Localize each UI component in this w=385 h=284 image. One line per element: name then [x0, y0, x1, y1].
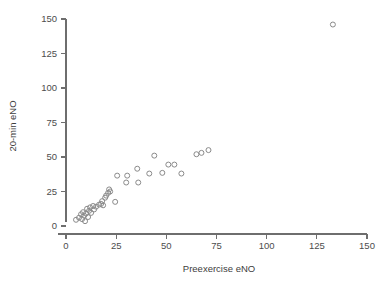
data-point — [152, 153, 157, 158]
plot-canvas: 0255075100125150 0255075100125150 Preexe… — [0, 0, 385, 284]
data-point — [136, 180, 141, 185]
x-tick-label: 0 — [63, 240, 68, 251]
x-axis-ticks: 0255075100125150 — [63, 234, 375, 251]
data-point — [166, 162, 171, 167]
data-point — [147, 171, 152, 176]
data-point — [135, 166, 140, 171]
data-point — [172, 162, 177, 167]
data-point — [115, 173, 120, 178]
data-point — [125, 173, 130, 178]
data-point — [206, 148, 211, 153]
y-axis: 0255075100125150 — [41, 13, 66, 231]
x-tick-label: 100 — [259, 240, 275, 251]
x-tick-label: 150 — [359, 240, 375, 251]
y-tick-label: 25 — [46, 186, 57, 197]
y-tick-label: 125 — [41, 48, 57, 59]
data-point-series — [74, 22, 336, 224]
y-tick-label: 0 — [52, 220, 57, 231]
x-axis: 0255075100125150 — [58, 234, 375, 251]
y-tick-label: 150 — [41, 13, 57, 24]
y-axis-ticks: 0255075100125150 — [41, 13, 66, 231]
x-tick-label: 25 — [111, 240, 122, 251]
x-tick-label: 75 — [211, 240, 222, 251]
data-point — [124, 180, 129, 185]
data-point — [199, 150, 204, 155]
y-tick-label: 75 — [46, 117, 57, 128]
y-tick-label: 50 — [46, 151, 57, 162]
scatter-plot-figure: 0255075100125150 0255075100125150 Preexe… — [0, 0, 385, 284]
data-point — [330, 22, 335, 27]
y-tick-label: 100 — [41, 82, 57, 93]
data-point — [113, 199, 118, 204]
data-point — [194, 152, 199, 157]
x-axis-title: Preexercise eNO — [183, 263, 255, 274]
data-point — [179, 171, 184, 176]
x-tick-label: 125 — [309, 240, 325, 251]
data-point — [160, 170, 165, 175]
x-tick-label: 50 — [161, 240, 172, 251]
y-axis-title: 20-min eNO — [7, 100, 18, 151]
